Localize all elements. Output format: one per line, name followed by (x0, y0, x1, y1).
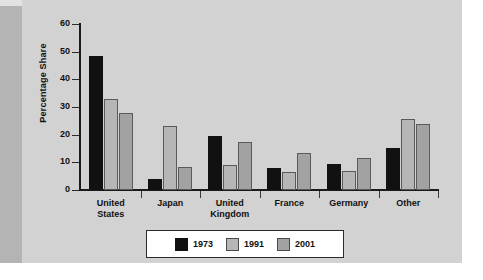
bar-2001 (178, 167, 192, 190)
bar-2001 (119, 113, 133, 190)
legend-item: 1973 (175, 238, 213, 251)
bar-1991 (342, 171, 356, 190)
bar-group (89, 24, 133, 190)
legend-item: 2001 (277, 238, 315, 251)
bar-group (208, 24, 252, 190)
category-separator-tick (438, 191, 439, 198)
bar-group (386, 24, 430, 190)
bar-1973 (267, 168, 281, 190)
y-axis-tick-label: 10 (24, 156, 70, 166)
category-separator-tick (141, 191, 142, 198)
category-label: Other (368, 198, 448, 209)
bar-1973 (327, 164, 341, 190)
chart-page: Percentage Share 0102030405060 United St… (0, 0, 483, 280)
category-separator-tick (260, 191, 261, 198)
bar-group (148, 24, 192, 190)
medium-gray-swatch (277, 238, 290, 251)
y-axis-tick-label: 30 (24, 101, 70, 111)
bar-1991 (282, 172, 296, 190)
legend-label: 1991 (244, 239, 264, 249)
legend-label: 2001 (295, 239, 315, 249)
bar-2001 (416, 124, 430, 190)
chart-figure: Percentage Share 0102030405060 United St… (22, 6, 462, 263)
bar-2001 (297, 153, 311, 190)
y-axis-tick-labels: 0102030405060 (22, 6, 70, 206)
bar-1991 (401, 119, 415, 190)
page-gutter-shadow (0, 6, 22, 263)
bar-2001 (357, 158, 371, 190)
category-separator-tick (379, 191, 380, 198)
chart-legend: 197319912001 (146, 230, 344, 258)
y-axis-tick-label: 50 (24, 46, 70, 56)
bar-1973 (386, 148, 400, 190)
bar-1973 (208, 136, 222, 190)
legend-label: 1973 (193, 239, 213, 249)
plot-area: Percentage Share 0102030405060 United St… (22, 6, 462, 263)
bar-1973 (89, 56, 103, 190)
bar-1991 (163, 126, 177, 190)
black-swatch (175, 238, 188, 251)
bar-group (267, 24, 311, 190)
y-axis-tick-label: 40 (24, 73, 70, 83)
y-axis-line (79, 23, 81, 191)
y-axis-tick-label: 60 (24, 18, 70, 28)
y-axis-tick-label: 20 (24, 129, 70, 139)
category-separator-tick (200, 191, 201, 198)
legend-item: 1991 (226, 238, 264, 251)
category-separator-tick (319, 191, 320, 198)
bar-group (327, 24, 371, 190)
y-axis-tick-label: 0 (24, 184, 70, 194)
bar-1973 (148, 179, 162, 190)
light-gray-swatch (226, 238, 239, 251)
bar-1991 (104, 99, 118, 190)
bar-2001 (238, 142, 252, 190)
bar-1991 (223, 165, 237, 190)
